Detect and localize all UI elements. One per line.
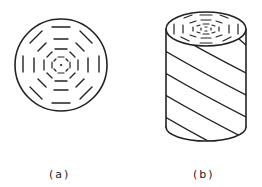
panel-a-label: (a) (49, 168, 70, 181)
cylinder-top-face (166, 12, 246, 46)
panel-b-label: (b) (193, 168, 215, 181)
center-dot (60, 64, 61, 65)
figure-canvas (0, 0, 262, 187)
panel-a-cross-section (15, 19, 107, 111)
panel-b-cylinder (150, 0, 260, 187)
cylinder-bottom-edge (166, 127, 246, 141)
